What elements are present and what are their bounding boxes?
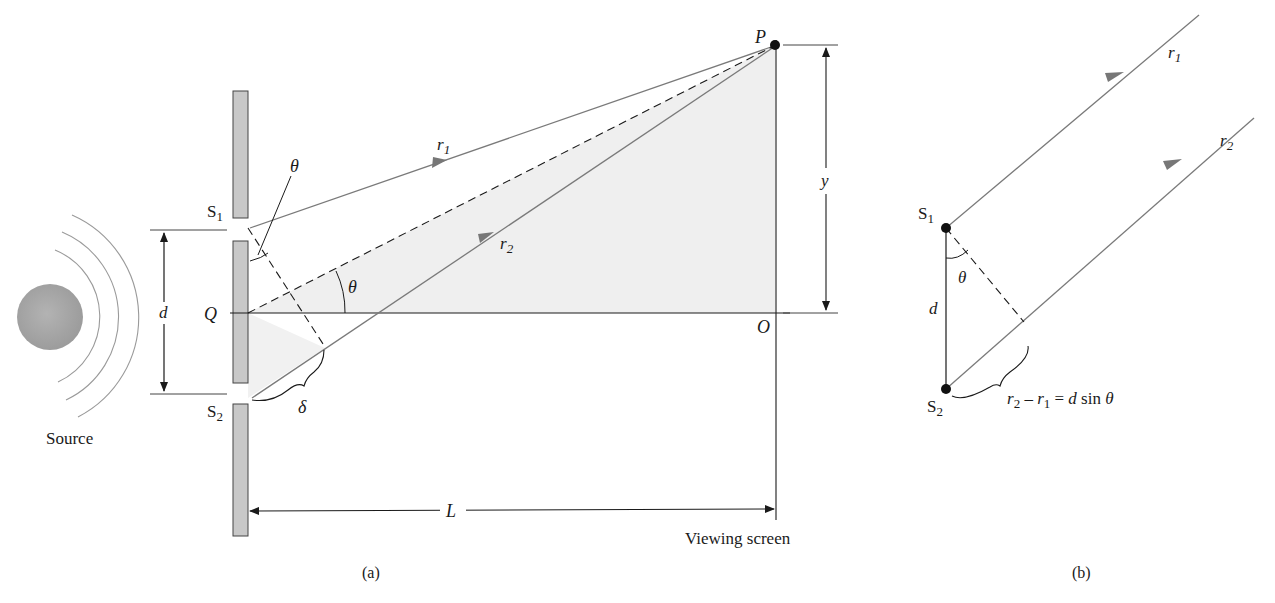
figure-a: Source d S1 S2 Q θ bbox=[17, 27, 838, 582]
figure-b: S1 S2 d θ r1 r2 r2 – r1 = d sin θ (b) bbox=[918, 15, 1254, 582]
barrier-middle bbox=[233, 241, 248, 383]
separation-label: d bbox=[159, 303, 168, 322]
caption-b: (b) bbox=[1072, 564, 1091, 582]
slit1-label-b: S1 bbox=[918, 204, 934, 226]
ray1-label-b: r1 bbox=[1168, 43, 1181, 65]
angle-label-b: θ bbox=[958, 268, 966, 287]
ray-r2-b-arrowhead bbox=[1163, 159, 1182, 170]
ray1-label: r1 bbox=[437, 135, 450, 157]
ray-r1-arrowhead bbox=[432, 157, 447, 168]
angle-label-top: θ bbox=[290, 156, 299, 176]
path-diff-brace-b bbox=[952, 346, 1028, 398]
path-diff-formula: r2 – r1 = d sin θ bbox=[1007, 389, 1114, 411]
shaded-region bbox=[248, 45, 775, 313]
slit1-point-b bbox=[941, 223, 951, 233]
source-sphere bbox=[17, 284, 83, 350]
height-label: y bbox=[819, 171, 829, 190]
double-slit-diagram: Source d S1 S2 Q θ bbox=[0, 0, 1275, 603]
ray2-label-b: r2 bbox=[1220, 131, 1234, 153]
center-q-label: Q bbox=[204, 304, 217, 324]
source-label: Source bbox=[46, 429, 93, 448]
screen-label: Viewing screen bbox=[685, 529, 791, 548]
barrier-bottom bbox=[233, 404, 248, 536]
origin-o-label: O bbox=[757, 317, 770, 337]
slit2-point-b bbox=[941, 384, 951, 394]
angle-label-mid: θ bbox=[348, 277, 357, 297]
separation-label-b: d bbox=[929, 299, 938, 318]
point-p bbox=[770, 40, 780, 50]
path-diff-label: δ bbox=[298, 397, 307, 417]
slit2-label: S2 bbox=[207, 402, 223, 424]
slit1-label: S1 bbox=[207, 202, 223, 224]
ray-r2-b bbox=[946, 118, 1254, 389]
point-p-label: P bbox=[754, 27, 766, 47]
l-dimension-arrow bbox=[250, 509, 774, 511]
distance-label: L bbox=[445, 501, 456, 521]
slit2-label-b: S2 bbox=[927, 397, 943, 419]
barrier-top bbox=[233, 91, 248, 218]
caption-a: (a) bbox=[362, 564, 380, 582]
ray-r1-b bbox=[946, 15, 1199, 228]
